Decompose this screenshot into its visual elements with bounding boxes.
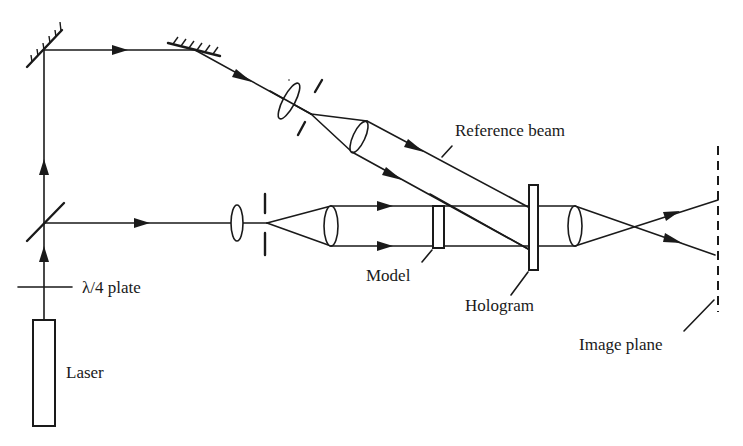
reference-cone-lower: [311, 114, 352, 152]
arrow-right-icon: [377, 201, 393, 211]
reference-beam-leader: [442, 146, 452, 157]
reference-collimator-lens: [346, 119, 371, 155]
laser: [33, 320, 55, 426]
image-ray-upper: [575, 200, 718, 246]
arrow-up-icon: [39, 246, 49, 262]
imaging-lens: [568, 206, 582, 246]
arrow-icon: [663, 233, 682, 243]
object-collimator-lens: [324, 206, 338, 246]
arrow-right-icon: [112, 45, 128, 55]
arrow-right-icon: [377, 241, 393, 251]
optical-diagram: Laser λ/4 plate: [0, 0, 743, 446]
hologram-leader: [511, 272, 528, 295]
arrow-icon: [663, 211, 680, 221]
hologram: [529, 185, 538, 270]
model-leader: [422, 250, 432, 262]
mirror-2: [168, 37, 220, 56]
reference-beam-label: Reference beam: [455, 121, 565, 140]
arrow-right-icon: [134, 218, 150, 228]
quarter-wave-plate-label: λ/4 plate: [82, 278, 141, 297]
model-label: Model: [366, 266, 411, 285]
hologram-label: Hologram: [465, 296, 534, 315]
reference-cone-upper: [311, 114, 367, 121]
object-cone-upper: [267, 206, 331, 223]
laser-body: [33, 320, 55, 426]
reference-pinhole-top: [315, 80, 322, 92]
object-cone-lower: [267, 223, 331, 246]
laser-label: Laser: [66, 363, 104, 382]
model: [433, 206, 444, 248]
beam-splitter: [27, 203, 64, 241]
object-focus-lens: [231, 205, 243, 241]
arrow-icon: [232, 69, 252, 82]
image-plane-label: Image plane: [579, 335, 663, 354]
image-plane-leader: [684, 300, 714, 331]
reference-pinhole-bottom: [298, 122, 305, 135]
arrow-icon: [404, 139, 424, 152]
arrow-up-icon: [39, 159, 49, 175]
arrow-icon: [382, 167, 402, 180]
image-ray-lower: [575, 206, 715, 255]
